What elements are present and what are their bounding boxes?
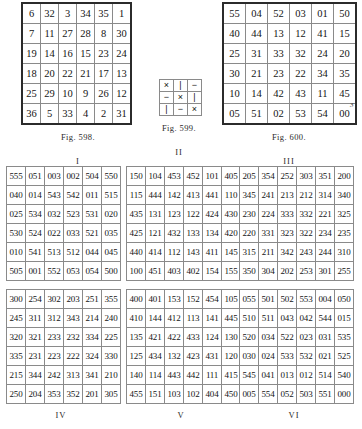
table-cell: 233 <box>45 328 64 347</box>
table-row: 520034522023031535 <box>240 328 354 347</box>
table-cell: 415 <box>222 366 241 385</box>
table-cell: 043 <box>278 309 297 328</box>
table-cell: 501 <box>259 290 278 309</box>
table-cell: 13 <box>268 24 290 44</box>
table-cell: 524 <box>26 224 45 243</box>
table-cell: 322 <box>297 224 316 243</box>
table-cell: 11 <box>312 84 334 104</box>
table-row: 455151103102404450 <box>127 385 241 404</box>
table-VI-block: 0555015025530040505105110430425440155200… <box>239 289 354 420</box>
table-cell: 25 <box>223 44 246 64</box>
table-cell: 225 <box>102 328 121 347</box>
table-cell: 35 <box>334 64 357 84</box>
table-cell: 000 <box>335 385 354 404</box>
table-cell: 034 <box>259 328 278 347</box>
table-cell: 024 <box>259 347 278 366</box>
table-cell: 135 <box>127 328 146 347</box>
table-cell: 351 <box>316 167 335 186</box>
table-I-body: 5550510030025045500400145435420115150255… <box>7 167 121 281</box>
table-cell: 250 <box>7 385 26 404</box>
table-cell: 342 <box>278 243 297 262</box>
table-cell: 14 <box>246 84 268 104</box>
table-cell: 231 <box>26 347 45 366</box>
table-cell: 230 <box>240 205 259 224</box>
table-cell: 121 <box>146 224 165 243</box>
table-row: 425121432133134420 <box>127 224 241 243</box>
table-row: 245311312343214240 <box>7 309 121 328</box>
table-cell: 352 <box>64 385 83 404</box>
table-II-body: 1501044534521014051154441424134411104351… <box>127 167 241 281</box>
table-cell: 045 <box>102 243 121 262</box>
table-cell: 153 <box>165 290 184 309</box>
table-cell: 451 <box>146 262 165 281</box>
table-cell: 241 <box>259 186 278 205</box>
table-cell: 28 <box>77 24 95 44</box>
table-cell: 040 <box>7 186 26 205</box>
table-cell: 42 <box>268 84 290 104</box>
table-cell: 11 <box>41 24 59 44</box>
table-cell: 441 <box>203 186 222 205</box>
table-cell: 210 <box>102 366 121 385</box>
table-cell: 323 <box>278 224 297 243</box>
table-cell: 8 <box>95 24 113 44</box>
table-cell: 404 <box>203 385 222 404</box>
table-cell: 455 <box>127 385 146 404</box>
table-cell: 301 <box>316 262 335 281</box>
table-cell: 114 <box>146 366 165 385</box>
table-cell: 023 <box>297 328 316 347</box>
table-row: 150104453452101405 <box>127 167 241 186</box>
table-cell: 525 <box>335 347 354 366</box>
figure-598-grid: 6323343517112728830191416152324182022211… <box>21 2 132 125</box>
table-cell: 235 <box>335 224 354 243</box>
table-cell: 36 <box>22 104 41 125</box>
table-cell: 31 <box>246 44 268 64</box>
table-cell: 152 <box>184 290 203 309</box>
table-row: 230224333332221325 <box>240 205 354 224</box>
table-cell: 120 <box>222 347 241 366</box>
table-row: 115444142413441110 <box>127 186 241 205</box>
table-cell: 18 <box>22 64 41 84</box>
table-row: 550452030150 <box>223 3 356 24</box>
table-cell: 053 <box>64 262 83 281</box>
table-cell: 240 <box>102 309 121 328</box>
table-cell: 12 <box>290 24 312 44</box>
table-cell: 341 <box>83 366 102 385</box>
table-cell: 011 <box>83 186 102 205</box>
table-cell: 403 <box>165 262 184 281</box>
table-IV-block: 3002543022032513552453113123432142403203… <box>6 289 121 420</box>
table-cell: 014 <box>26 186 45 205</box>
page-number: 3 <box>350 101 354 109</box>
table-cell: 315 <box>240 243 259 262</box>
table-cell: 515 <box>102 186 121 205</box>
table-cell: × <box>174 92 188 104</box>
table-cell: 132 <box>165 347 184 366</box>
table-cell: 1 <box>113 3 132 24</box>
table-cell: 253 <box>297 262 316 281</box>
table-cell: 15 <box>334 24 357 44</box>
table-cell: 453 <box>165 167 184 186</box>
table-row: 404413124115 <box>223 24 356 44</box>
table-cell: 421 <box>146 328 165 347</box>
table-cell: 003 <box>45 167 64 186</box>
table-cell: 32 <box>290 44 312 64</box>
table-cell: | <box>160 104 174 116</box>
table-cell: 251 <box>83 290 102 309</box>
table-cell: 505 <box>7 262 26 281</box>
table-row: 125434132423431120 <box>127 347 241 366</box>
table-cell: 313 <box>64 366 83 385</box>
table-cell: | <box>188 92 202 104</box>
table-cell: 530 <box>7 224 26 243</box>
table-cell: 303 <box>297 167 316 186</box>
table-cell: 4 <box>77 104 95 125</box>
table-cell: 243 <box>297 243 316 262</box>
table-cell: 52 <box>268 3 290 24</box>
table-cell: 144 <box>146 309 165 328</box>
table-row: 435131123122424430 <box>127 205 241 224</box>
table-cell: 245 <box>7 309 26 328</box>
table-cell: 544 <box>316 309 335 328</box>
table-cell: 31 <box>113 104 132 125</box>
table-cell: 200 <box>335 167 354 186</box>
table-cell: 335 <box>7 347 26 366</box>
table-row: 440414112143411145 <box>127 243 241 262</box>
table-cell: 124 <box>203 328 222 347</box>
